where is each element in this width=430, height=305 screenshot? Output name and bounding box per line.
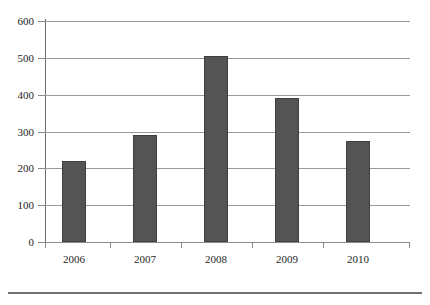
x-axis-tick-right-end — [409, 243, 410, 248]
x-tick-label-2008: 2008 — [186, 253, 246, 265]
y-axis-tick-400 — [38, 95, 45, 96]
bar-2007[interactable] — [133, 135, 157, 242]
x-tick-label-2010: 2010 — [328, 253, 388, 265]
x-axis-tick-3 — [252, 243, 253, 248]
bar-2006[interactable] — [62, 161, 86, 242]
y-tick-label-0: 0 — [0, 237, 34, 248]
bar-2010[interactable] — [346, 141, 370, 242]
x-axis-tick-1 — [110, 243, 111, 248]
x-tick-label-2006: 2006 — [44, 253, 104, 265]
x-axis-tick-left-end — [45, 243, 46, 248]
figure-bottom-rule — [8, 292, 422, 294]
y-tick-label-300: 300 — [0, 127, 34, 138]
caption-remnant-text — [95, 0, 330, 3]
bar-2009[interactable] — [275, 98, 299, 242]
y-tick-label-100: 100 — [0, 200, 34, 211]
x-axis-tick-4 — [323, 243, 324, 248]
x-axis-line — [45, 242, 410, 243]
plot-area — [45, 21, 410, 242]
y-tick-label-500: 500 — [0, 53, 34, 64]
bar-chart-figure: 600 500 400 300 200 100 0 2006 2007 2008… — [0, 0, 430, 305]
y-axis-tick-500 — [38, 58, 45, 59]
x-tick-label-2007: 2007 — [115, 253, 175, 265]
y-axis-tick-300 — [38, 132, 45, 133]
bar-2008[interactable] — [204, 56, 228, 242]
y-axis-tick-labels: 600 500 400 300 200 100 0 — [0, 0, 34, 305]
gridline-600 — [45, 21, 410, 22]
y-axis-tick-600 — [38, 21, 45, 22]
x-tick-label-2009: 2009 — [257, 253, 317, 265]
y-axis-tick-0 — [38, 242, 45, 243]
y-tick-label-400: 400 — [0, 90, 34, 101]
y-tick-label-200: 200 — [0, 163, 34, 174]
x-axis-tick-2 — [181, 243, 182, 248]
y-tick-label-600: 600 — [0, 16, 34, 27]
y-axis-tick-100 — [38, 205, 45, 206]
y-axis-tick-200 — [38, 168, 45, 169]
